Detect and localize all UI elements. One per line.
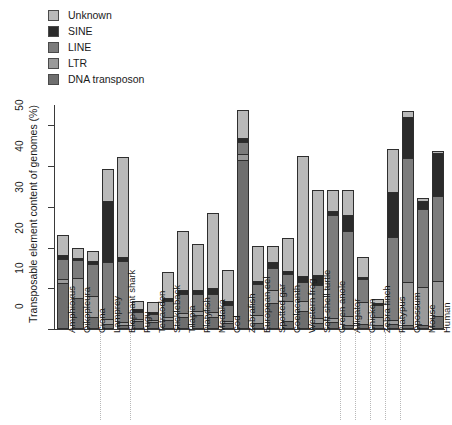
x-axis-tick-label: Platypus: [397, 297, 407, 333]
bar-segment: [237, 110, 249, 139]
bar-segment: [312, 190, 324, 276]
bar-segment: [402, 158, 414, 282]
group-separator: [130, 332, 131, 420]
x-axis-tick-label: Zebrafish: [247, 293, 257, 333]
bar-segment: [207, 213, 219, 288]
group-separator: [385, 332, 386, 420]
bar-segment: [342, 190, 354, 214]
bar-segment: [417, 201, 429, 209]
y-axis-tick: [48, 166, 54, 167]
bar-segment: [72, 260, 84, 278]
bar-segment: [57, 235, 69, 255]
x-axis-tick-label: Zebra finch: [382, 285, 392, 333]
x-axis-tick-label: Stickleback: [172, 285, 182, 333]
bar-segment: [102, 169, 114, 201]
bar-segment: [192, 244, 204, 291]
y-axis-tick: [48, 207, 54, 208]
x-axis-tick-label: Soft-shell turtle: [322, 270, 332, 333]
y-axis-tick: [48, 288, 54, 289]
bar-segment: [222, 270, 234, 301]
group-separator: [355, 332, 356, 420]
x-axis-tick-label: Human: [442, 302, 452, 333]
y-axis-tick-label: 40: [14, 141, 25, 171]
bar-segment: [117, 157, 129, 257]
bar-segment: [87, 251, 99, 261]
x-axis-tick-label: Green anole: [337, 281, 347, 333]
bar-segment: [102, 201, 114, 262]
bar-segment: [177, 231, 189, 290]
bar-segment: [417, 209, 429, 286]
y-axis-title: Transposable element content of genomes …: [27, 99, 39, 329]
group-separator: [370, 332, 371, 420]
x-axis-tick-label: Opossum: [412, 292, 422, 333]
bar-segment: [237, 142, 249, 154]
bar-segment: [267, 246, 279, 262]
x-axis-tick-label: Lamprey: [112, 296, 122, 333]
group-separator: [400, 332, 401, 420]
x-axis-tick-label: Spotted gar: [277, 284, 287, 333]
x-axis-tick-label: Western frog: [307, 279, 317, 333]
y-axis-tick-label: 30: [14, 181, 25, 211]
bar-segment: [387, 192, 399, 237]
bar-segment: [72, 248, 84, 258]
y-axis-tick: [48, 248, 54, 249]
y-axis-tick-label: 20: [14, 222, 25, 252]
group-separator: [340, 332, 341, 420]
bar-segment: [432, 153, 444, 196]
bar-segment: [297, 156, 309, 276]
y-axis-tick-label: 0: [14, 304, 25, 334]
x-axis-tick-label: Amphioxus: [67, 286, 77, 333]
x-axis-tick-label: Medaka: [217, 299, 227, 333]
x-axis-tick-label: Chicken: [367, 299, 377, 333]
x-axis-tick-label: Platyfish: [202, 297, 212, 333]
y-axis-tick-label: 50: [14, 100, 25, 130]
x-axis-tick-label: Elephant shark: [127, 270, 137, 333]
x-axis-tick-label: Mouse: [427, 304, 437, 333]
x-axis-tick-label: Coelacanth: [292, 285, 302, 333]
x-axis-tick-label: Fugu: [142, 311, 152, 333]
bar-segment: [57, 259, 69, 279]
y-axis-tick: [48, 125, 54, 126]
x-axis-tick-label: Tetraodon: [157, 291, 167, 333]
bar-segment: [282, 238, 294, 271]
y-axis-tick-label: 10: [14, 263, 25, 293]
bar-segment: [432, 196, 444, 282]
bar-segment: [357, 257, 369, 277]
bar-segment: [327, 190, 339, 210]
x-axis-tick-label: European eel: [262, 276, 272, 333]
x-axis-tick-label: Ciona: [97, 308, 107, 333]
bar-segment: [387, 149, 399, 192]
x-axis-tick-label: Cod: [232, 316, 242, 333]
bar-segment: [342, 215, 354, 231]
bar-segment: [402, 117, 414, 158]
x-axis-tick-label: Oikopleura: [82, 287, 92, 333]
x-axis-tick-label: Alligator: [352, 299, 362, 333]
group-separator: [100, 332, 101, 420]
x-axis-tick-label: Tilapia: [187, 305, 197, 333]
